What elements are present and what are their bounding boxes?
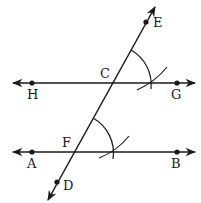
point-E <box>143 19 148 24</box>
label-D: D <box>63 178 73 193</box>
label-G: G <box>171 87 181 102</box>
label-B: B <box>171 156 181 171</box>
label-A: A <box>26 156 37 171</box>
point-D <box>54 179 59 184</box>
intersect-arc-at-C <box>137 67 167 90</box>
point-B <box>174 149 179 154</box>
label-E: E <box>153 15 163 30</box>
label-F: F <box>62 135 71 150</box>
label-C: C <box>100 66 110 81</box>
point-G <box>174 80 179 85</box>
label-H: H <box>27 87 38 102</box>
point-A <box>29 149 34 154</box>
point-H <box>29 80 34 85</box>
parallel-line-construction-diagram: E C H G F A B D <box>0 0 201 203</box>
transversal-DE <box>48 7 155 200</box>
